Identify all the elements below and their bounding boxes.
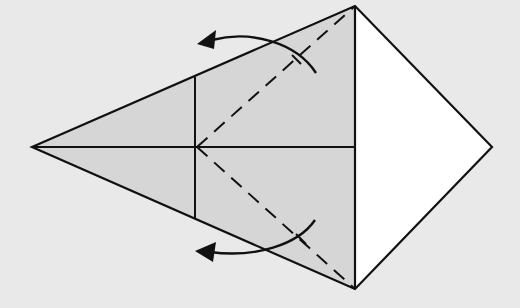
diagram-canvas (0, 0, 520, 308)
origami-diagram (0, 0, 520, 308)
white-right-triangle (355, 6, 492, 289)
